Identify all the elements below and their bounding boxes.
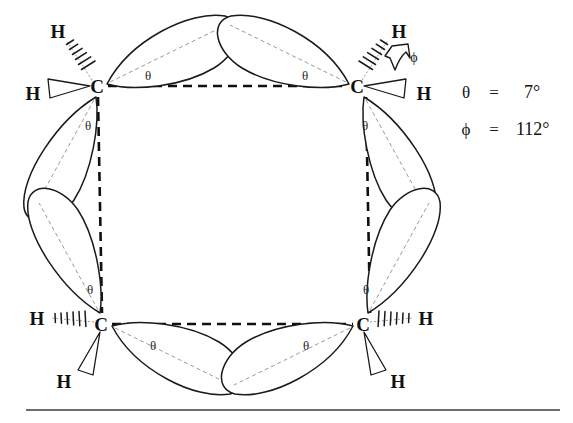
- legend: θ = 7° ϕ = 112°: [462, 82, 550, 139]
- legend-row-phi: ϕ = 112°: [462, 119, 550, 139]
- hash-guide-top-right: [362, 40, 388, 80]
- carbon-label-top-left: C: [90, 76, 104, 97]
- theta-label-top-left: θ: [145, 68, 151, 83]
- legend-phi-value: 112°: [516, 119, 550, 139]
- hydrogen-label-top-right-hashed: H: [392, 21, 407, 42]
- hashed-wedge-top-left: [67, 40, 96, 70]
- orbital-lobe-bottom-right: [221, 323, 353, 395]
- legend-theta-symbol: θ: [462, 83, 470, 102]
- solid-wedge-bottom-left: [78, 332, 100, 375]
- legend-phi-equals: =: [489, 120, 499, 139]
- hashed-wedge-top-right: [359, 40, 388, 70]
- hydrogen-label-top-left-wedge: H: [26, 83, 41, 104]
- theta-label-left-upper: θ: [85, 118, 91, 133]
- hydrogen-label-top-left-hashed: H: [51, 21, 66, 42]
- hydrogen-label-bottom-left-hashed: H: [30, 308, 45, 329]
- curved-arrow-icon: [385, 44, 410, 70]
- orbital-lobe-top-right: [217, 15, 349, 87]
- substituents-top-left: [48, 40, 95, 98]
- carbon-label-top-right: C: [350, 76, 364, 97]
- hydrogen-label-bottom-right-hashed: H: [419, 308, 434, 329]
- hydrogen-label-group: H H H H H H H H: [26, 21, 434, 392]
- figure-canvas: C C C C H H H H H H H H θ θ θ θ θ θ θ θ: [0, 0, 573, 423]
- hash-guide-top-left: [66, 40, 92, 80]
- theta-label-left-lower: θ: [87, 282, 93, 297]
- hashed-wedge-bottom-right: [378, 311, 409, 327]
- carbon-label-bottom-left: C: [94, 314, 108, 335]
- phi-rotation-arrow-group: [385, 44, 410, 70]
- phi-symbol-marker: ϕ: [410, 50, 417, 65]
- orbital-lobe-pair-bottom: [112, 323, 353, 395]
- solid-wedge-top-right: [364, 79, 406, 98]
- cyclobutane-bent-bond-diagram: C C C C H H H H H H H H θ θ θ θ θ θ θ θ: [0, 0, 573, 423]
- theta-label-group: θ θ θ θ θ θ θ θ: [85, 68, 369, 353]
- solid-wedge-top-left: [48, 79, 90, 98]
- theta-label-right-upper: θ: [362, 118, 368, 133]
- carbon-label-bottom-right: C: [356, 314, 370, 335]
- theta-label-top-right: θ: [302, 68, 308, 83]
- orbital-lobe-right-lower: [367, 188, 440, 313]
- substituents-bottom-left: [52, 311, 100, 375]
- hydrogen-label-bottom-right-wedge: H: [391, 371, 406, 392]
- legend-row-theta: θ = 7°: [462, 82, 540, 102]
- hydrogen-label-top-right-wedge: H: [417, 83, 432, 104]
- substituents-bottom-right: [364, 311, 412, 375]
- theta-label-bottom-right: θ: [303, 338, 309, 353]
- carbon-label-group: C C C C: [90, 76, 370, 335]
- solid-wedge-bottom-right: [364, 332, 386, 375]
- theta-label-bottom-left: θ: [150, 338, 156, 353]
- orbital-lobe-pair-right: [363, 97, 440, 313]
- legend-theta-value: 7°: [524, 82, 540, 102]
- orbital-lobe-pair-top: [107, 15, 349, 87]
- legend-phi-symbol: ϕ: [462, 120, 471, 139]
- hydrogen-label-bottom-left-wedge: H: [57, 371, 72, 392]
- hashed-wedge-bottom-left: [55, 311, 86, 327]
- theta-label-right-lower: θ: [363, 282, 369, 297]
- legend-theta-equals: =: [489, 83, 499, 102]
- ring-bond-group: [98, 86, 370, 324]
